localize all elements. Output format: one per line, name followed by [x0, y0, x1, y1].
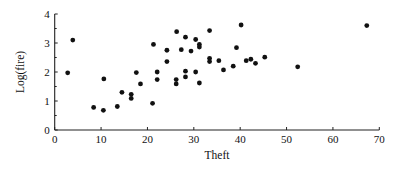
data-point	[189, 49, 194, 54]
x-axis-title: Theft	[205, 149, 231, 161]
data-point	[91, 105, 96, 110]
data-point	[174, 29, 179, 34]
y-tick-label: 4	[44, 8, 50, 20]
data-point	[239, 23, 244, 28]
x-tick-label: 10	[96, 133, 108, 145]
data-point	[193, 37, 198, 42]
data-points	[65, 23, 369, 113]
data-point	[134, 70, 139, 75]
x-tick-label: 20	[142, 133, 154, 145]
data-point	[193, 70, 198, 75]
data-point	[101, 77, 106, 82]
data-point	[231, 64, 236, 69]
data-point	[221, 68, 226, 73]
data-point	[183, 75, 188, 80]
data-point	[165, 59, 170, 64]
data-point	[174, 77, 179, 82]
data-point	[234, 45, 239, 50]
data-point	[115, 104, 120, 109]
data-point	[155, 77, 160, 82]
x-tick-label: 50	[281, 133, 293, 145]
data-point	[120, 90, 125, 95]
scatter-chart: 01020304050607001234 Theft Log(fire)	[0, 0, 403, 172]
data-point	[70, 38, 75, 43]
data-point	[364, 23, 369, 28]
axes: 01020304050607001234	[44, 8, 385, 145]
data-point	[295, 64, 300, 69]
y-tick-label: 3	[44, 37, 50, 49]
y-axis-title: Log(fire)	[14, 51, 27, 93]
data-point	[174, 81, 179, 86]
data-point	[151, 42, 156, 47]
data-point	[101, 108, 106, 113]
x-tick-label: 60	[327, 133, 339, 145]
data-point	[150, 101, 155, 106]
data-point	[129, 96, 134, 101]
data-point	[248, 57, 253, 62]
data-point	[197, 45, 202, 50]
data-point	[216, 58, 221, 63]
x-tick-label: 30	[188, 133, 200, 145]
data-point	[244, 58, 249, 63]
data-point	[197, 81, 202, 86]
x-tick-label: 40	[235, 133, 247, 145]
data-point	[183, 35, 188, 40]
data-point	[165, 48, 170, 53]
x-tick-label: 0	[52, 133, 58, 145]
data-point	[179, 47, 184, 52]
data-point	[155, 70, 160, 75]
x-tick-label: 70	[374, 133, 386, 145]
y-tick-label: 0	[44, 124, 50, 136]
data-point	[65, 70, 70, 75]
y-tick-label: 1	[44, 95, 50, 107]
data-point	[138, 81, 143, 86]
y-tick-label: 2	[44, 66, 50, 78]
data-point	[207, 59, 212, 64]
data-point	[253, 61, 258, 66]
data-point	[207, 28, 212, 33]
data-point	[183, 69, 188, 74]
data-point	[262, 55, 267, 60]
